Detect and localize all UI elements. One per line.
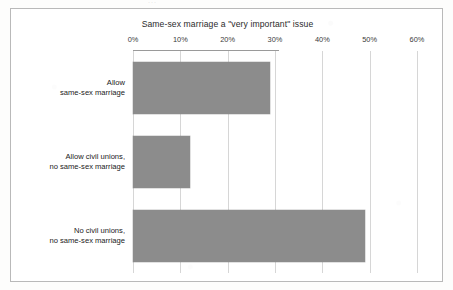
category-label-2: No civil unions,no same-sex marriage: [13, 226, 125, 246]
x-axis-tick-10%: 10%: [173, 35, 188, 44]
x-axis-tick-20%: 20%: [220, 35, 235, 44]
category-label-line: same-sex marriage: [13, 88, 125, 98]
x-axis-tick-40%: 40%: [315, 35, 330, 44]
bar-0: [133, 62, 270, 114]
bar-2: [133, 210, 365, 262]
category-label-line: no same-sex marriage: [13, 162, 125, 172]
x-axis-tick-50%: 50%: [362, 35, 377, 44]
plot-area: 0%10%20%30%40%50%60%: [133, 51, 417, 273]
x-axis-tick-0%: 0%: [128, 35, 139, 44]
bar-1: [133, 136, 190, 188]
gridline-50%: [370, 51, 371, 273]
category-label-line: Allow civil unions,: [13, 152, 125, 162]
scan-artifact-top: ···: [148, 0, 157, 5]
chart-figure-frame: Same-sex marriage a "very important" iss…: [10, 8, 443, 282]
chart-title: Same-sex marriage a "very important" iss…: [11, 19, 444, 29]
category-label-line: No civil unions,: [13, 226, 125, 236]
gridline-60%: [417, 51, 418, 273]
scanned-page: ··· \ Same-sex marriage a "very importan…: [0, 0, 453, 290]
category-label-line: no same-sex marriage: [13, 236, 125, 246]
x-axis-tick-30%: 30%: [268, 35, 283, 44]
category-label-1: Allow civil unions,no same-sex marriage: [13, 152, 125, 172]
category-label-line: Allow: [13, 78, 125, 88]
x-axis-tick-60%: 60%: [410, 35, 425, 44]
category-label-0: Allowsame-sex marriage: [13, 78, 125, 98]
